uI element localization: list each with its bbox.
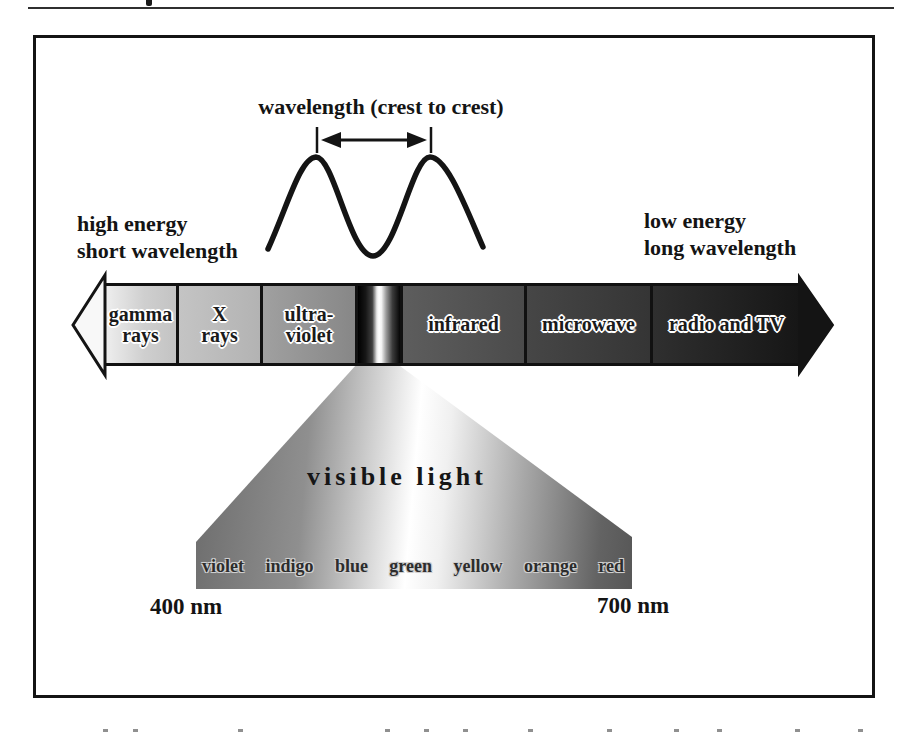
segment-label: radio and TV: [669, 314, 784, 335]
low-energy-annotation: low energy long wavelength: [644, 207, 796, 261]
segment-gamma-rays: gamma rays: [105, 286, 176, 363]
high-energy-line1: high energy: [77, 210, 238, 237]
segment-x-rays: X rays: [176, 286, 260, 363]
spectrum-band: gamma rays X rays ultra- violet infrared…: [105, 283, 800, 366]
visible-light-label: visible light: [307, 462, 487, 492]
segment-infrared: infrared: [400, 286, 524, 363]
color-name-orange: orange: [524, 556, 577, 577]
visible-color-names: violet indigo blue green yellow orange r…: [198, 556, 628, 577]
segment-label: rays: [122, 325, 159, 346]
wavelength-crest-label: wavelength (crest to crest): [258, 94, 503, 120]
segment-ultraviolet: ultra- violet: [260, 286, 355, 363]
segment-label: X: [212, 304, 226, 325]
segment-radio-tv: radio and TV: [650, 286, 800, 363]
low-energy-line2: long wavelength: [644, 234, 796, 261]
color-name-violet: violet: [202, 556, 244, 577]
color-name-red: red: [598, 556, 624, 577]
page-header-rule: [28, 7, 894, 9]
low-energy-line1: low energy: [644, 207, 796, 234]
segment-label: infrared: [428, 314, 499, 335]
wavelength-max-label: 700 nm: [597, 593, 669, 619]
segment-label: ultra-: [285, 304, 334, 325]
segment-visible-band: [355, 286, 400, 363]
color-name-yellow: yellow: [453, 556, 502, 577]
segment-label: violet: [286, 325, 333, 346]
color-name-green: green: [389, 556, 432, 577]
high-energy-line2: short wavelength: [77, 237, 238, 264]
scanned-page: wavelength (crest to crest) high energy …: [0, 0, 902, 735]
color-name-indigo: indigo: [265, 556, 313, 577]
wavelength-min-label: 400 nm: [150, 594, 222, 620]
segment-label: microwave: [542, 314, 635, 335]
cropped-header-glyph: [146, 0, 152, 6]
segment-microwave: microwave: [524, 286, 650, 363]
high-energy-annotation: high energy short wavelength: [77, 210, 238, 264]
color-name-blue: blue: [335, 556, 368, 577]
segment-label: gamma: [109, 304, 172, 325]
segment-label: rays: [201, 325, 238, 346]
